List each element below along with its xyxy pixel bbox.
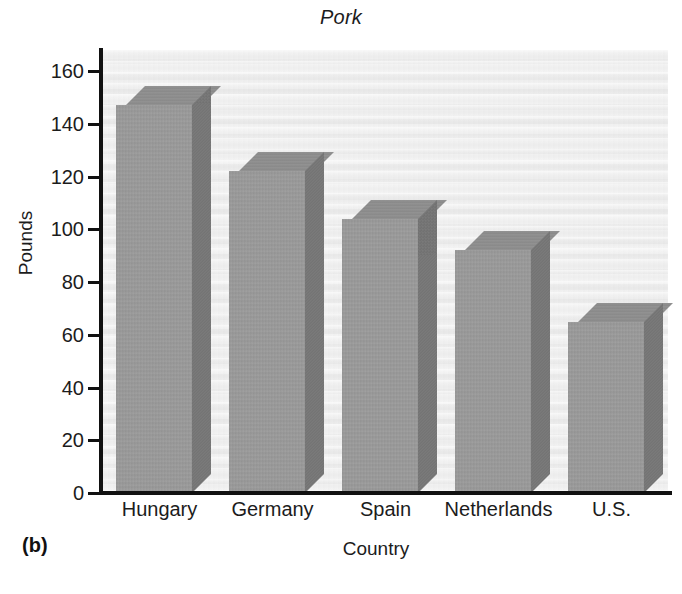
y-axis-tick (88, 123, 100, 126)
bar (342, 219, 418, 493)
bar-front-face (568, 322, 644, 493)
bar (116, 105, 192, 493)
bar-side-face (644, 303, 663, 493)
bar-front-face (229, 171, 305, 493)
y-axis-tick-label: 140 (2, 114, 84, 134)
y-axis-tick (88, 439, 100, 442)
y-axis-tick (88, 387, 100, 390)
x-axis-title: Country (96, 538, 656, 560)
y-axis-tick-label: 40 (2, 378, 84, 398)
bar (455, 250, 531, 493)
y-axis-line (99, 48, 103, 495)
y-axis-tick-label: 100 (2, 219, 84, 239)
x-axis-tick-label: Hungary (103, 498, 216, 521)
bar-side-face (305, 152, 324, 493)
chart-title: Pork (0, 6, 682, 29)
bar-front-face (116, 105, 192, 493)
y-axis-tick (88, 334, 100, 337)
y-axis-tick-label: 120 (2, 167, 84, 187)
y-axis-tick-label: 20 (2, 430, 84, 450)
bar-side-face (531, 231, 550, 493)
x-axis-tick-label: Germany (216, 498, 329, 521)
y-axis-tick (88, 281, 100, 284)
pork-bar-chart-figure: Pork Pounds 020406080100120140160 Hungar… (0, 0, 682, 594)
x-axis-tick-label: U.S. (555, 498, 668, 521)
y-axis-tick-label: 80 (2, 272, 84, 292)
y-axis-tick-label: 60 (2, 325, 84, 345)
y-axis-tick (88, 492, 100, 495)
x-axis-tick-label: Netherlands (442, 498, 555, 521)
bar (229, 171, 305, 493)
y-axis-tick-label: 160 (2, 61, 84, 81)
bar (568, 322, 644, 493)
y-axis-tick-label: 0 (2, 483, 84, 503)
bar-side-face (192, 86, 211, 493)
y-axis-tick (88, 228, 100, 231)
bar-front-face (342, 219, 418, 493)
bar-front-face (455, 250, 531, 493)
y-axis-tick (88, 176, 100, 179)
x-axis-tick-label: Spain (329, 498, 442, 521)
x-axis-line (99, 491, 672, 495)
bar-side-face (418, 200, 437, 493)
y-axis-tick (88, 70, 100, 73)
panel-label: (b) (22, 534, 48, 557)
plot-area (103, 50, 668, 493)
